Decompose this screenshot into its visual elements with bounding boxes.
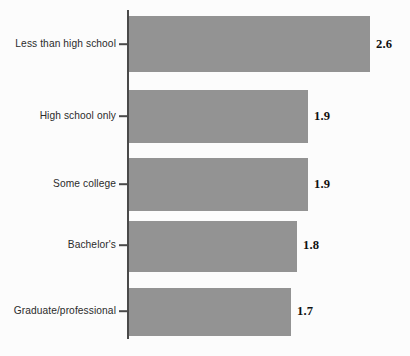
category-label: Bachelor's bbox=[68, 240, 116, 250]
bar-chart: Less than high school 2.6 High school on… bbox=[0, 0, 410, 356]
category-label: High school only bbox=[40, 111, 116, 121]
category-label: Less than high school bbox=[15, 39, 116, 49]
axis-tick bbox=[119, 244, 128, 246]
axis-tick bbox=[119, 43, 128, 45]
bar[interactable] bbox=[129, 158, 308, 211]
bar-value-label: 1.8 bbox=[303, 239, 319, 252]
axis-tick bbox=[119, 310, 128, 312]
axis-tick bbox=[119, 115, 128, 117]
bar-value-label: 2.6 bbox=[376, 38, 392, 51]
category-label: Some college bbox=[53, 179, 116, 189]
bar[interactable] bbox=[129, 288, 291, 336]
axis-tick bbox=[119, 183, 128, 185]
bar-value-label: 1.7 bbox=[297, 305, 313, 318]
bar[interactable] bbox=[129, 16, 370, 72]
bar-value-label: 1.9 bbox=[314, 110, 330, 123]
bar[interactable] bbox=[129, 90, 308, 143]
bar[interactable] bbox=[129, 221, 297, 272]
bar-value-label: 1.9 bbox=[314, 178, 330, 191]
category-label: Graduate/professional bbox=[14, 306, 116, 316]
